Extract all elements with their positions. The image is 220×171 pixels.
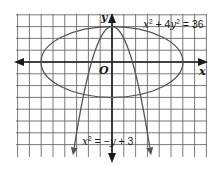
ellipse-equation-label: x2 + 4y2 = 36	[143, 18, 204, 30]
origin-label: O	[99, 64, 109, 77]
x-axis-label: x	[198, 65, 206, 78]
parabola-equation-label: x2 = −y + 3	[82, 135, 134, 147]
x-axis-left-arrow-icon	[14, 58, 24, 66]
y-axis-down-arrow-icon	[108, 153, 116, 163]
y-axis-label: y	[100, 11, 109, 24]
coordinate-graph: y x O x2 + 4y2 = 36 x2 = −y + 3	[0, 0, 220, 171]
